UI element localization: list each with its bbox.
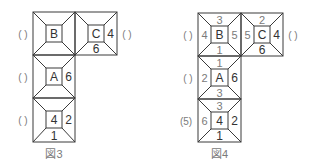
- face-number: 2: [201, 72, 207, 84]
- cell-label: 4: [216, 114, 223, 128]
- cell-label: B: [215, 28, 223, 42]
- cell-C: C 2 4 6 5: [241, 13, 283, 57]
- answer-bracket: ( ): [288, 30, 297, 41]
- face-number: 2: [65, 113, 72, 127]
- figure-3: B C 4 6 A 6: [18, 12, 131, 160]
- answer-bracket: ( ): [122, 29, 131, 40]
- face-number: 6: [231, 71, 238, 85]
- face-number: 4: [273, 28, 280, 42]
- figure-caption: 図4: [211, 148, 228, 160]
- cell-C: C 4 6: [75, 12, 117, 56]
- face-number: 5: [244, 29, 250, 41]
- answer-bracket: ( ): [183, 30, 192, 41]
- cell-A: A 6: [33, 55, 75, 98]
- cell-4: 4 3 2 1 6: [198, 99, 241, 143]
- figure-caption: 図3: [45, 148, 62, 160]
- cell-label: A: [50, 70, 58, 84]
- face-number: 6: [259, 43, 266, 57]
- cell-label: B: [50, 27, 58, 41]
- cell-4: 4 2 1: [33, 98, 75, 143]
- face-number: 3: [216, 87, 222, 99]
- face-number: 6: [201, 115, 207, 127]
- face-number: 6: [93, 42, 100, 56]
- net-diagrams: B C 4 6 A 6: [0, 0, 311, 166]
- answer-bracket: ( ): [18, 115, 27, 126]
- face-number: 3: [216, 100, 222, 112]
- face-number: 1: [51, 129, 58, 143]
- cell-label: C: [258, 28, 267, 42]
- face-number: 6: [65, 70, 72, 84]
- face-number: 4: [201, 29, 207, 41]
- face-number: 1: [216, 129, 223, 143]
- answer-bracket: ( ): [18, 29, 27, 40]
- cell-B: B 3 5 1 4: [198, 13, 241, 56]
- face-number: 1: [216, 44, 222, 56]
- face-number: 2: [259, 14, 265, 26]
- face-number: 3: [216, 14, 222, 26]
- face-number: 2: [231, 114, 238, 128]
- face-number: 1: [216, 57, 222, 69]
- answer-bracket: ( ): [183, 73, 192, 84]
- cell-label: C: [92, 27, 101, 41]
- cell-A: A 1 6 3 2: [198, 56, 241, 99]
- face-number: 5: [231, 29, 237, 41]
- cell-B: B: [33, 12, 75, 55]
- cell-label: 4: [51, 113, 58, 127]
- answer-bracket: (5): [180, 116, 192, 127]
- cell-label: A: [215, 71, 223, 85]
- face-number: 4: [107, 27, 114, 41]
- figure-4: B 3 5 1 4 C 2 4 6 5 A: [180, 13, 298, 160]
- answer-bracket: ( ): [18, 72, 27, 83]
